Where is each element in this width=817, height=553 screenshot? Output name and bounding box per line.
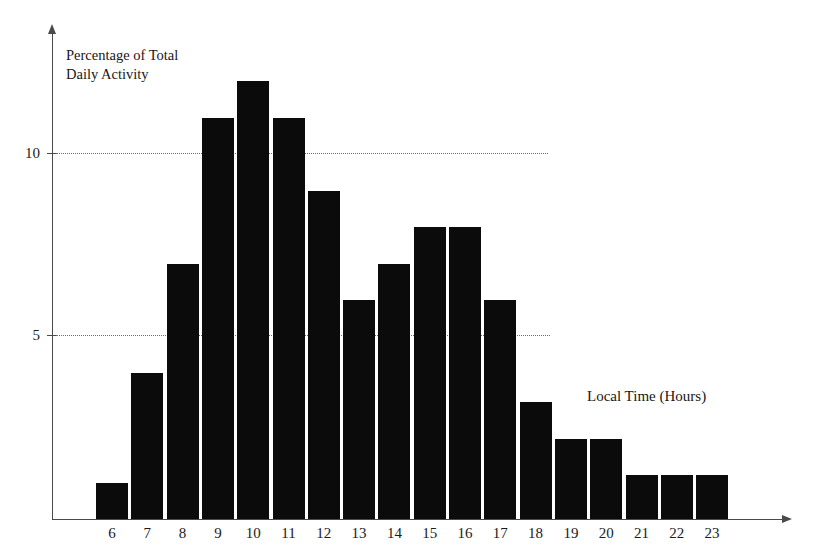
bar-hour-23 xyxy=(696,475,728,519)
bar-hour-6 xyxy=(96,483,128,520)
bar-hour-22 xyxy=(661,475,693,519)
x-tick-label-18: 18 xyxy=(522,526,550,541)
bar-hour-10 xyxy=(237,81,269,519)
x-tick-label-14: 14 xyxy=(380,526,408,541)
x-tick-label-6: 6 xyxy=(98,526,126,541)
bar-hour-13 xyxy=(343,300,375,519)
bar-hour-17 xyxy=(484,300,516,519)
x-tick-label-11: 11 xyxy=(275,526,303,541)
x-tick-label-12: 12 xyxy=(310,526,338,541)
bar-hour-8 xyxy=(167,264,199,520)
bar-hour-14 xyxy=(378,264,410,520)
x-tick-label-13: 13 xyxy=(345,526,373,541)
bar-hour-15 xyxy=(414,227,446,519)
bar-hour-11 xyxy=(273,118,305,520)
x-tick-label-7: 7 xyxy=(133,526,161,541)
x-tick-label-16: 16 xyxy=(451,526,479,541)
bar-chart: 10 5 67891011121314151617181920212223 Pe… xyxy=(0,0,817,553)
x-tick-label-17: 17 xyxy=(486,526,514,541)
x-tick-label-22: 22 xyxy=(663,526,691,541)
bar-hour-20 xyxy=(590,439,622,519)
x-tick-label-19: 19 xyxy=(557,526,585,541)
x-tick-label-10: 10 xyxy=(239,526,267,541)
x-tick-label-20: 20 xyxy=(592,526,620,541)
y-axis-title: Percentage of Total Daily Activity xyxy=(66,46,178,85)
bar-hour-9 xyxy=(202,118,234,520)
bar-hour-7 xyxy=(131,373,163,519)
x-tick-label-15: 15 xyxy=(416,526,444,541)
bar-hour-21 xyxy=(626,475,658,519)
bar-hour-16 xyxy=(449,227,481,519)
bar-hour-19 xyxy=(555,439,587,519)
bar-hour-18 xyxy=(520,402,552,519)
x-tick-label-23: 23 xyxy=(698,526,726,541)
x-tick-label-8: 8 xyxy=(169,526,197,541)
x-tick-label-21: 21 xyxy=(628,526,656,541)
bar-hour-12 xyxy=(308,191,340,520)
x-tick-label-9: 9 xyxy=(204,526,232,541)
x-axis-title: Local Time (Hours) xyxy=(587,389,706,404)
